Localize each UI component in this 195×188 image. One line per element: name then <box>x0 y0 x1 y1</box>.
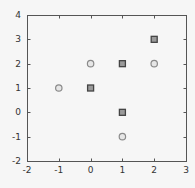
y-tick-label: 0 <box>15 107 21 117</box>
y-tick-label: -1 <box>12 132 21 142</box>
y-axis-tick-labels: -2-101234 <box>12 10 21 166</box>
y-tick-label: 4 <box>15 10 21 20</box>
x-tick-label: 1 <box>120 165 126 175</box>
circle-marker <box>151 60 157 66</box>
square-marker <box>88 85 94 91</box>
circle-marker <box>87 60 93 66</box>
scatter-chart: -2-10123 -2-101234 <box>0 0 195 188</box>
y-tick-label: -2 <box>12 156 21 166</box>
x-tick-label: -2 <box>23 165 32 175</box>
x-tick-label: -1 <box>54 165 63 175</box>
y-tick-label: 2 <box>15 59 21 69</box>
plot-area <box>28 16 187 162</box>
x-axis-tick-labels: -2-10123 <box>23 165 189 175</box>
data-points <box>56 36 158 140</box>
axis-ticks <box>28 16 187 162</box>
square-marker <box>151 36 157 42</box>
circle-marker <box>56 85 62 91</box>
square-marker <box>119 109 125 115</box>
square-marker <box>119 61 125 67</box>
circle-marker <box>119 133 125 139</box>
y-tick-label: 3 <box>15 34 21 44</box>
x-tick-label: 0 <box>88 165 94 175</box>
x-tick-label: 2 <box>151 165 157 175</box>
y-tick-label: 1 <box>15 83 21 93</box>
x-tick-label: 3 <box>183 165 189 175</box>
